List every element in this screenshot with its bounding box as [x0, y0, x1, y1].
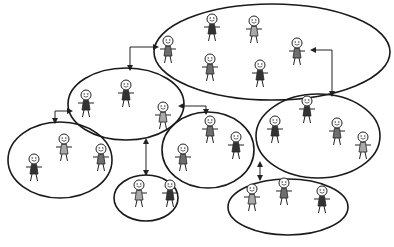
group-top: [154, 4, 390, 100]
person-icon: [228, 132, 244, 159]
person-icon: [202, 54, 218, 81]
person-icon: [289, 38, 305, 65]
person-icon: [204, 14, 220, 41]
person-icon: [276, 178, 292, 205]
person-icon: [160, 36, 176, 63]
person-icon: [78, 90, 94, 117]
groups-layer: [8, 4, 390, 235]
group-ellipse: [154, 4, 390, 100]
social-group-diagram: [0, 0, 394, 247]
person-icon: [355, 132, 371, 159]
person-icon: [246, 16, 262, 43]
group-left-mid: [68, 68, 184, 140]
person-icon: [314, 186, 330, 213]
group-right: [256, 94, 380, 178]
connection-arrow-top-right: [315, 50, 332, 96]
person-icon: [202, 116, 218, 143]
group-bottom-small: [114, 175, 178, 221]
diagram-canvas: [0, 0, 394, 247]
person-icon: [56, 134, 72, 161]
person-icon: [299, 96, 315, 123]
person-icon: [252, 60, 268, 87]
connection-arrow-left-mid-far-left: [55, 111, 68, 123]
group-ellipse: [8, 122, 112, 198]
person-icon: [162, 180, 178, 207]
person-icon: [26, 154, 42, 181]
group-far-left: [8, 122, 112, 198]
group-ellipse: [228, 179, 348, 235]
person-icon: [329, 118, 345, 145]
person-icon: [244, 184, 260, 211]
group-center: [162, 112, 254, 188]
person-icon: [155, 102, 171, 129]
person-icon: [118, 80, 134, 107]
person-icon: [93, 144, 109, 171]
person-icon: [267, 116, 283, 143]
group-bottom-right: [228, 178, 348, 235]
person-icon: [131, 180, 147, 207]
person-icon: [175, 144, 191, 171]
connection-arrow-top-left-mid: [130, 47, 154, 70]
